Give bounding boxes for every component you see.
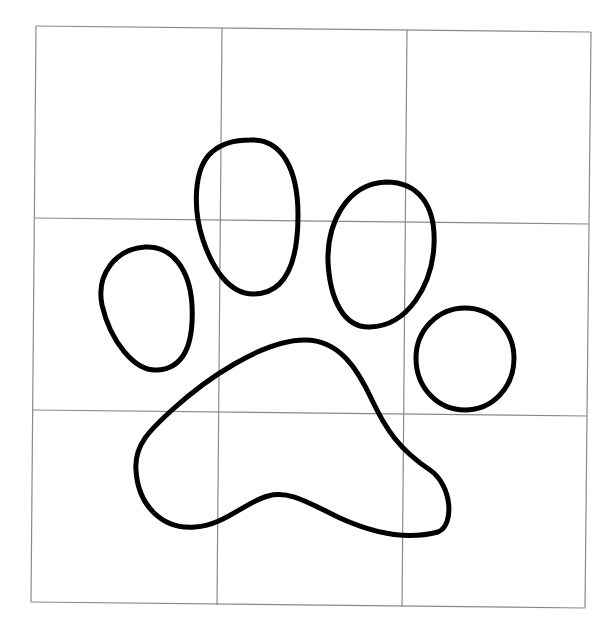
main-pad — [136, 340, 449, 536]
toe-pad-inner-right — [328, 182, 434, 327]
grid-border-bottom — [31, 602, 585, 608]
grid-border-right — [585, 32, 591, 608]
toe-pad-left — [101, 247, 192, 370]
toe-pad-inner-left — [196, 140, 298, 294]
paw-print — [101, 140, 514, 536]
grid-line-horizontal-2 — [32, 410, 587, 416]
grid-line-horizontal-1 — [34, 218, 589, 224]
toe-pad-right — [416, 308, 514, 410]
grid-line-vertical-2 — [402, 30, 407, 607]
grid-border-left — [31, 26, 36, 602]
grid — [31, 26, 591, 608]
grid-border-top — [36, 26, 591, 32]
paw-print-drawing — [0, 0, 614, 636]
